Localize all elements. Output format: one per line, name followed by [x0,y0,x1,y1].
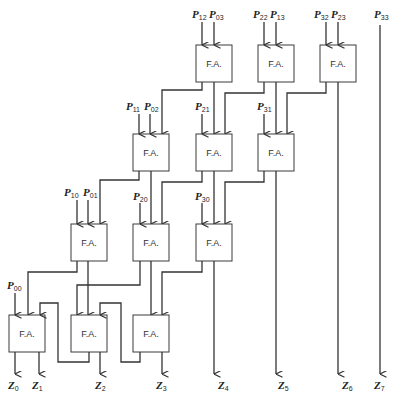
full-adder-label: F.A. [330,59,346,69]
full-adder-label: F.A. [206,59,222,69]
input-label-p23: P23 [331,8,346,21]
input-label-p31: P31 [257,100,272,113]
full-adder-label: F.A. [143,329,159,339]
input-label-p01: P01 [83,186,98,199]
row-2: F.A. F.A. F.A. P11 P02 P21 P31 [126,100,294,171]
output-label-z3: Z3 [155,379,167,392]
input-label-p21: P21 [195,100,210,113]
full-adder-label: F.A. [81,329,97,339]
row-3: F.A. F.A. F.A. P10 P01 P20 P30 [64,186,232,261]
input-label-p33: P33 [374,8,389,21]
carry-wire [77,261,140,315]
full-adder-label: F.A. [19,329,35,339]
full-adder-array-diagram: F.A. F.A. F.A. P12 P03 P22 P13 P32 P23 P… [0,0,400,408]
carry-wire [28,261,77,315]
carry-wire [225,171,264,224]
output-label-z7: Z7 [373,379,385,392]
output-label-z0: Z0 [7,379,19,392]
row-1: F.A. F.A. F.A. P12 P03 P22 P13 P32 P23 P… [192,8,389,82]
input-label-p22: P22 [253,8,268,21]
output-label-z6: Z6 [341,379,353,392]
input-label-p13: P13 [270,8,285,21]
full-adder-label: F.A. [268,148,284,158]
input-label-p00: P00 [7,279,22,292]
input-label-p32: P32 [314,8,329,21]
input-label-p02: P02 [144,100,159,113]
input-label-p11: P11 [126,100,140,113]
full-adder-label: F.A. [206,238,222,248]
output-label-z4: Z4 [217,379,229,392]
output-label-z2: Z2 [94,379,106,392]
output-label-z5: Z5 [277,379,289,392]
full-adder-label: F.A. [143,238,159,248]
full-adder-label: F.A. [268,59,284,69]
full-adder-label: F.A. [206,148,222,158]
input-label-p20: P20 [133,190,148,203]
full-adder-label: F.A. [81,238,97,248]
input-label-p03: P03 [209,8,224,21]
full-adder-label: F.A. [143,148,159,158]
carry-wire [162,261,202,315]
output-label-z1: Z1 [31,379,43,392]
input-label-p10: P10 [64,186,79,199]
input-label-p12: P12 [192,8,207,21]
input-label-p30: P30 [195,190,210,203]
carry-wire [287,82,326,134]
